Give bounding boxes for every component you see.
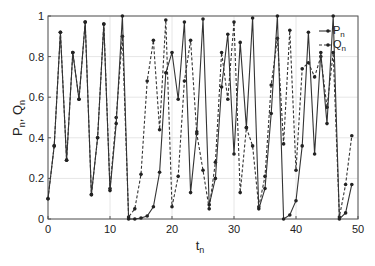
data-point	[139, 216, 143, 220]
data-point	[214, 177, 218, 181]
data-point	[344, 183, 348, 187]
data-point	[226, 97, 230, 101]
legend: PnQn	[319, 24, 346, 53]
data-point	[300, 67, 304, 71]
data-point	[170, 51, 174, 55]
data-point	[319, 51, 323, 55]
data-point	[338, 217, 342, 221]
data-point	[245, 126, 249, 130]
data-point	[114, 122, 118, 126]
data-point	[313, 152, 317, 156]
data-point	[288, 213, 292, 217]
data-point	[220, 85, 224, 89]
x-tick-label: 50	[352, 223, 364, 235]
data-point	[207, 203, 211, 207]
data-point	[52, 144, 56, 148]
data-point	[350, 134, 354, 138]
data-point	[238, 191, 242, 195]
data-point	[71, 51, 75, 55]
data-point	[77, 97, 81, 101]
data-point	[183, 20, 187, 24]
y-tick-label: 0.4	[29, 132, 44, 144]
x-tick-label: 30	[228, 223, 240, 235]
data-point	[189, 39, 193, 43]
data-point	[145, 79, 149, 83]
data-point	[145, 214, 149, 218]
y-tick-label: 0	[38, 213, 44, 225]
x-tick-label: 20	[166, 223, 178, 235]
data-point	[257, 207, 261, 211]
data-point	[170, 205, 174, 209]
data-point	[164, 71, 168, 75]
data-point	[139, 173, 143, 177]
data-point	[294, 168, 298, 172]
data-point	[189, 191, 193, 195]
data-point	[195, 130, 199, 134]
data-point	[226, 32, 230, 36]
data-point	[183, 79, 187, 83]
legend-label: Pn	[333, 24, 345, 39]
y-tick-label: 1	[38, 10, 44, 22]
series-line-p	[48, 16, 352, 219]
data-point	[269, 112, 273, 116]
data-point	[46, 197, 50, 201]
legend-marker	[326, 29, 330, 33]
data-point	[251, 16, 255, 20]
line-chart: 0102030405000.20.40.60.81 PnQn tn Pn, Qn	[0, 0, 375, 266]
data-point	[232, 20, 236, 24]
x-tick-label: 0	[45, 223, 51, 235]
data-point	[96, 136, 100, 140]
data-point	[331, 14, 335, 18]
data-point	[344, 211, 348, 215]
data-point	[83, 20, 87, 24]
data-point	[325, 122, 329, 126]
y-axis-label: Pn, Qn	[10, 100, 27, 136]
grid-lines	[48, 16, 358, 219]
data-point	[350, 183, 354, 187]
data-point	[307, 30, 311, 34]
data-point	[90, 193, 94, 197]
data-point	[282, 142, 286, 146]
data-point	[152, 205, 156, 209]
data-point	[238, 41, 242, 45]
data-point	[176, 97, 180, 101]
data-point	[152, 39, 156, 43]
data-point	[102, 22, 106, 26]
data-point	[158, 128, 162, 132]
data-point	[207, 207, 211, 211]
data-point	[294, 199, 298, 203]
data-point	[164, 18, 168, 22]
plot-area-frame	[48, 16, 358, 219]
data-point	[251, 144, 255, 148]
data-point	[313, 75, 317, 79]
legend-label: Qn	[333, 38, 346, 53]
x-axis-label: tn	[196, 238, 205, 255]
data-point	[176, 175, 180, 179]
data-point	[282, 217, 286, 221]
legend-marker	[326, 43, 330, 47]
data-point	[121, 14, 125, 18]
data-point	[108, 189, 112, 193]
x-tick-label: 40	[290, 223, 302, 235]
x-tick-label: 10	[104, 223, 116, 235]
y-tick-label: 0.2	[29, 172, 44, 184]
y-tick-label: 0.8	[29, 51, 44, 63]
data-point	[201, 17, 205, 21]
data-point	[133, 217, 137, 221]
data-point	[288, 28, 292, 32]
data-point	[263, 187, 267, 191]
data-point	[59, 30, 63, 34]
data-point	[276, 14, 280, 18]
data-point	[133, 207, 137, 211]
data-point	[300, 144, 304, 148]
y-tick-label: 0.6	[29, 91, 44, 103]
data-series	[46, 14, 353, 221]
series-line-q	[48, 20, 352, 217]
data-point	[201, 168, 205, 172]
data-point	[220, 51, 224, 55]
data-point	[232, 152, 236, 156]
data-point	[158, 171, 162, 175]
data-point	[127, 217, 131, 221]
data-point	[65, 158, 69, 162]
